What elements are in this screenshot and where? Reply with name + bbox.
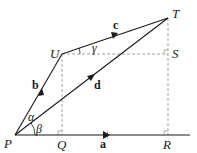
right-angle-S bbox=[164, 50, 168, 54]
angle-label-beta: β bbox=[35, 122, 42, 136]
vector-label-c: c bbox=[113, 18, 119, 32]
right-angle-markers bbox=[58, 50, 168, 135]
vector-diagram: P Q R S T U a b c d α β γ bbox=[0, 0, 197, 153]
angle-gamma-arc bbox=[79, 48, 80, 54]
vector-label-b: b bbox=[32, 78, 39, 92]
vector-label-a: a bbox=[100, 137, 106, 151]
point-label-S: S bbox=[172, 46, 179, 61]
vector-label-d: d bbox=[94, 78, 101, 92]
angle-label-alpha: α bbox=[28, 110, 35, 124]
right-angle-Q bbox=[58, 131, 62, 135]
right-angle-R bbox=[164, 131, 168, 135]
point-label-P: P bbox=[3, 136, 12, 151]
point-label-R: R bbox=[162, 137, 171, 152]
point-label-T: T bbox=[172, 6, 180, 21]
angle-beta-arc bbox=[31, 123, 35, 135]
point-label-Q: Q bbox=[57, 137, 67, 152]
point-label-U: U bbox=[50, 46, 61, 61]
angle-label-gamma: γ bbox=[92, 41, 97, 55]
vector-lines bbox=[15, 18, 190, 135]
